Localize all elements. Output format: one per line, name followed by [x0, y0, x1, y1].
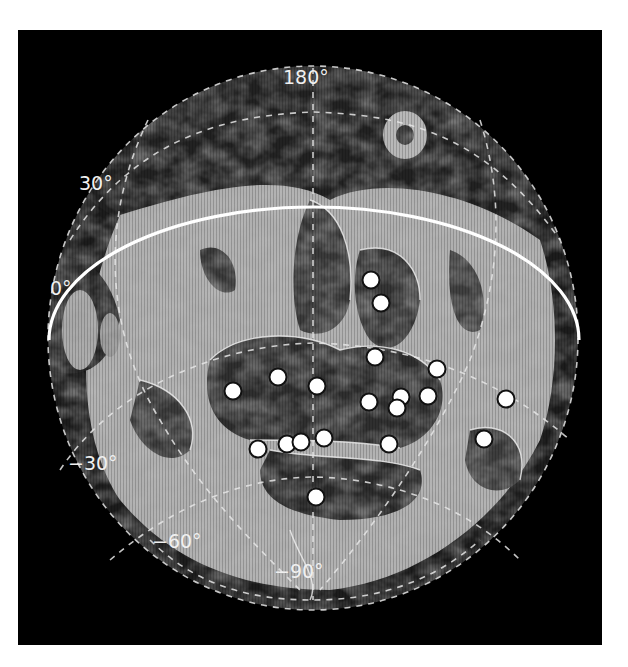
label-lat-minus-90: −90°: [274, 560, 324, 582]
label-meridian-180: 180°: [283, 66, 329, 88]
data-marker-16: [316, 430, 333, 447]
label-lat-0: 0°: [50, 277, 72, 299]
data-marker-18: [476, 431, 493, 448]
data-marker-8: [361, 394, 378, 411]
data-marker-19: [308, 489, 325, 506]
data-marker-4: [429, 361, 446, 378]
data-marker-6: [270, 369, 287, 386]
data-marker-13: [250, 441, 267, 458]
data-marker-10: [389, 400, 406, 417]
data-marker-17: [381, 436, 398, 453]
data-marker-11: [420, 388, 437, 405]
data-marker-5: [225, 383, 242, 400]
data-marker-12: [498, 391, 515, 408]
label-lat-minus-30: −30°: [68, 452, 118, 474]
data-marker-2: [373, 295, 390, 312]
label-lat-minus-60: −60°: [152, 530, 202, 552]
data-marker-1: [363, 272, 380, 289]
data-marker-7: [309, 378, 326, 395]
label-lat-30: 30°: [79, 172, 113, 194]
globe-map-figure: 180° 30° 0° −30° −60° −90°: [0, 0, 628, 667]
data-marker-15: [293, 434, 310, 451]
data-marker-3: [367, 349, 384, 366]
